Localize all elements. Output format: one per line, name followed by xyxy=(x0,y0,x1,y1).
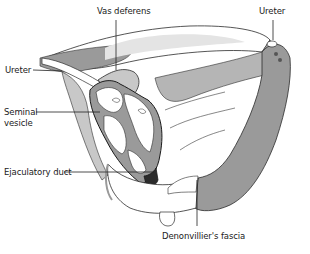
label-seminal-vesicle-line2: vesicle xyxy=(4,118,33,128)
label-vas-deferens: Vas deferens xyxy=(97,6,151,16)
label-seminal-vesicle-line1: Seminal xyxy=(4,107,38,117)
ureter-right-opening xyxy=(267,41,277,47)
label-ureter-right: Ureter xyxy=(259,6,285,16)
label-denonvilliers-fascia: Denonvillier's fascia xyxy=(162,231,245,241)
anatomy-figure: Vas deferens Ureter Ureter Seminal vesic… xyxy=(0,0,310,254)
urethra xyxy=(159,212,174,226)
denonvilliers-fascia xyxy=(168,176,198,194)
label-ejaculatory-duct: Ejaculatory duct xyxy=(4,167,72,177)
ureter-right-detail xyxy=(278,58,282,62)
anatomy-illustration xyxy=(0,0,310,254)
ureter-right-detail xyxy=(274,52,278,56)
label-ureter-left: Ureter xyxy=(5,65,31,75)
